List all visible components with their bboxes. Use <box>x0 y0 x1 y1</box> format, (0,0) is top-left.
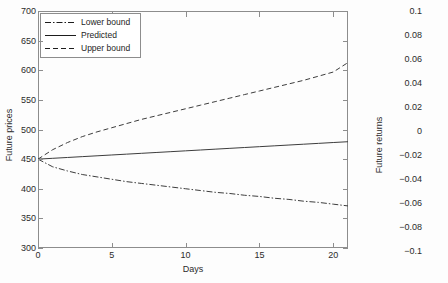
x-tick-mark <box>186 243 187 248</box>
y-tick-label-returns: 0.08 <box>382 31 422 40</box>
x-tick-mark <box>112 243 113 248</box>
y-tick-label-returns: 0.06 <box>382 55 422 64</box>
legend-line-dashed <box>44 43 77 54</box>
x-tick-mark <box>38 12 39 17</box>
y-tick-label-returns: −0.08 <box>382 223 422 232</box>
legend-item-lower-bound: Lower bound <box>44 16 137 29</box>
x-tick-mark <box>259 12 260 17</box>
legend: Lower bound Predicted Upper bound <box>40 13 141 58</box>
legend-line-dash-dot <box>44 17 77 28</box>
y-tick-mark <box>38 70 43 71</box>
figure-future-returns: 0.10.080.060.040.020−0.02−0.04−0.06−0.08… <box>360 0 448 283</box>
x-axis-title: Days <box>183 264 204 274</box>
y-tick-mark <box>343 11 348 12</box>
legend-line-solid <box>44 30 77 41</box>
legend-label: Predicted <box>81 31 117 40</box>
y-tick-mark <box>343 70 348 71</box>
x-tick-label: 10 <box>181 251 191 260</box>
y-tick-mark <box>38 189 43 190</box>
legend-label: Lower bound <box>81 18 130 27</box>
y-tick-mark <box>343 248 348 249</box>
y-axis-title: Future prices <box>4 105 14 165</box>
x-tick-mark <box>186 12 187 17</box>
y-tick-mark <box>38 11 43 12</box>
y-tick-mark <box>38 159 43 160</box>
y-tick-mark <box>343 130 348 131</box>
y-tick-mark <box>343 41 348 42</box>
legend-item-upper-bound: Upper bound <box>44 42 137 55</box>
legend-label: Upper bound <box>81 44 130 53</box>
x-tick-label: 5 <box>109 251 114 260</box>
screenshot-root: 300350400450500550600650700 05101520 Day… <box>0 0 448 283</box>
y-tick-mark <box>38 248 43 249</box>
y-tick-mark <box>38 130 43 131</box>
y-tick-mark <box>343 189 348 190</box>
x-tick-mark <box>333 12 334 17</box>
y-tick-mark <box>38 100 43 101</box>
y-tick-mark <box>38 218 43 219</box>
y-tick-mark <box>343 159 348 160</box>
x-tick-label: 15 <box>254 251 264 260</box>
y-axis-title-returns: Future returns <box>374 110 384 180</box>
x-tick-label: 20 <box>328 251 338 260</box>
x-tick-mark <box>259 243 260 248</box>
y-tick-label-returns: 0.02 <box>382 103 422 112</box>
y-tick-label-returns: −0.06 <box>382 199 422 208</box>
x-tick-mark <box>333 243 334 248</box>
y-tick-label-returns: 0.04 <box>382 79 422 88</box>
y-tick-label-returns: −0.02 <box>382 151 422 160</box>
x-tick-label: 0 <box>35 251 40 260</box>
y-tick-label-returns: −0.1 <box>382 247 422 256</box>
legend-item-predicted: Predicted <box>44 29 137 42</box>
y-tick-mark <box>343 218 348 219</box>
y-tick-label-returns: 0.1 <box>382 7 422 16</box>
y-tick-mark <box>343 100 348 101</box>
y-tick-label-returns: −0.04 <box>382 175 422 184</box>
figure-future-prices: 300350400450500550600650700 05101520 Day… <box>0 0 360 283</box>
y-tick-label-returns: 0 <box>382 127 422 136</box>
y-tick-mark <box>38 41 43 42</box>
